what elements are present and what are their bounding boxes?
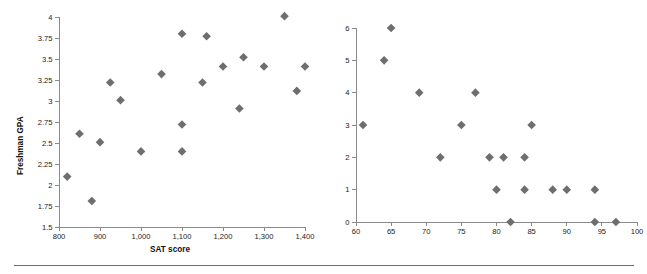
y-axis-tick-label: 4 bbox=[48, 13, 52, 22]
horizontal-divider-rule bbox=[14, 265, 634, 266]
y-axis-tick-label: 2.5 bbox=[42, 139, 53, 148]
data-point-marker bbox=[492, 185, 501, 194]
data-point-marker bbox=[239, 53, 248, 62]
y-axis-tick-label: 6 bbox=[345, 24, 349, 33]
data-point-marker bbox=[178, 30, 187, 39]
y-axis-tick-label: 3 bbox=[345, 121, 349, 130]
y-axis-tick-label: 1 bbox=[345, 185, 349, 194]
x-axis-tick-label: 1,000 bbox=[131, 232, 150, 241]
y-axis-tick-label: 1.5 bbox=[42, 223, 53, 232]
data-point-marker bbox=[520, 153, 529, 162]
data-point-marker bbox=[157, 70, 166, 79]
figure-container: 1.51.7522.252.52.7533.253.53.7548009001,… bbox=[0, 0, 647, 274]
data-point-marker bbox=[96, 138, 105, 147]
data-point-marker bbox=[75, 129, 84, 138]
data-point-marker bbox=[591, 185, 600, 194]
data-point-marker bbox=[88, 197, 97, 206]
plot-area-sat-gpa: 1.51.7522.252.52.7533.253.53.7548009001,… bbox=[0, 0, 330, 274]
data-point-marker bbox=[178, 147, 187, 156]
y-axis-tick-label: 2 bbox=[48, 181, 52, 190]
y-axis-tick-label: 1.75 bbox=[38, 202, 53, 211]
data-point-marker bbox=[178, 120, 187, 129]
data-point-marker bbox=[380, 56, 389, 65]
x-axis-tick-label: 1,400 bbox=[295, 232, 314, 241]
data-point-marker bbox=[436, 153, 445, 162]
y-axis-tick-label: 3.25 bbox=[38, 76, 53, 85]
data-point-marker bbox=[280, 12, 289, 21]
data-point-marker bbox=[293, 87, 302, 96]
y-axis-tick-label: 2.75 bbox=[38, 118, 53, 127]
y-axis-tick-label: 5 bbox=[345, 56, 349, 65]
data-point-marker bbox=[235, 104, 244, 113]
x-axis-tick-label: 65 bbox=[387, 227, 395, 236]
x-axis-tick-label: 1,300 bbox=[254, 232, 273, 241]
data-point-marker bbox=[548, 185, 557, 194]
data-point-marker bbox=[387, 24, 396, 33]
data-point-marker bbox=[471, 88, 480, 97]
y-axis-tick-label: 3.5 bbox=[42, 55, 53, 64]
scatter-plot-sat-gpa: 1.51.7522.252.52.7533.253.53.7548009001,… bbox=[0, 0, 330, 274]
data-point-marker bbox=[562, 185, 571, 194]
x-axis-tick-label: 900 bbox=[94, 232, 107, 241]
y-axis-tick-label: 3 bbox=[48, 97, 52, 106]
x-axis-tick-label: 75 bbox=[457, 227, 465, 236]
data-point-marker bbox=[359, 121, 368, 130]
x-axis-tick-label: 800 bbox=[53, 232, 66, 241]
data-point-marker bbox=[260, 62, 269, 71]
plot-area-absences-exam: 01234566065707580859095100 bbox=[330, 0, 647, 274]
x-axis-tick-label: 1,200 bbox=[213, 232, 232, 241]
data-point-marker bbox=[116, 96, 125, 105]
y-axis-tick-label: 3.75 bbox=[38, 34, 53, 43]
x-axis-tick-label: 60 bbox=[352, 227, 360, 236]
x-axis-title-sat-score: SAT score bbox=[100, 245, 240, 254]
data-point-marker bbox=[499, 153, 508, 162]
data-point-marker bbox=[301, 62, 310, 71]
y-axis-title-freshman-gpa: Freshman GPA bbox=[16, 116, 25, 175]
y-axis-tick-label: 0 bbox=[345, 218, 349, 227]
data-point-marker bbox=[485, 153, 494, 162]
y-axis-tick-label: 2 bbox=[345, 153, 349, 162]
data-point-marker bbox=[506, 218, 515, 227]
data-point-marker bbox=[106, 78, 115, 87]
x-axis-tick-label: 70 bbox=[422, 227, 430, 236]
x-axis-tick-label: 95 bbox=[598, 227, 606, 236]
data-point-marker bbox=[63, 172, 72, 181]
y-axis-tick-label: 4 bbox=[345, 88, 349, 97]
scatter-plot-absences-exam: 01234566065707580859095100 Final exam gr… bbox=[330, 0, 647, 274]
data-point-marker bbox=[527, 121, 536, 130]
x-axis-tick-label: 80 bbox=[492, 227, 500, 236]
y-axis-tick-label: 2.25 bbox=[38, 160, 53, 169]
data-point-marker bbox=[202, 32, 211, 41]
data-point-marker bbox=[137, 147, 146, 156]
x-axis-tick-label: 100 bbox=[631, 227, 644, 236]
x-axis-tick-label: 85 bbox=[527, 227, 535, 236]
data-point-marker bbox=[219, 62, 228, 71]
data-point-marker bbox=[198, 78, 207, 87]
data-point-marker bbox=[415, 88, 424, 97]
data-point-marker bbox=[591, 218, 600, 227]
data-point-marker bbox=[612, 218, 621, 227]
data-point-marker bbox=[520, 185, 529, 194]
x-axis-tick-label: 1,100 bbox=[172, 232, 191, 241]
data-point-marker bbox=[457, 121, 466, 130]
x-axis-tick-label: 90 bbox=[563, 227, 571, 236]
